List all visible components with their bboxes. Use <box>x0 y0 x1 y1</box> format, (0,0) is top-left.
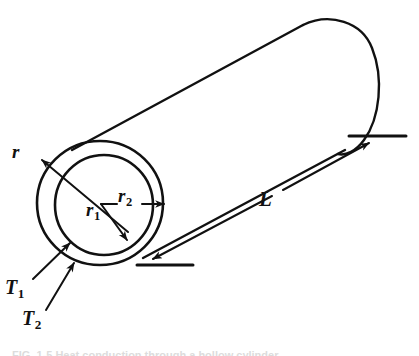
temperature-leaders <box>33 243 74 310</box>
label-inner-temperature-base: T <box>5 276 17 298</box>
label-outer-radius: r2 <box>118 186 132 205</box>
label-radial-direction: r <box>12 142 19 161</box>
cylinder-bottom-edge <box>143 150 345 258</box>
length-arrow-far <box>283 143 369 190</box>
inner-radius-arrow <box>101 204 127 240</box>
cylinder-diagram-canvas <box>0 0 419 356</box>
outer-temperature-leader <box>46 263 74 310</box>
inner-radius-dimension <box>101 204 127 240</box>
inner-temperature-leader <box>33 243 70 279</box>
label-outer-radius-subscript: 2 <box>126 195 132 209</box>
length-arrow-near <box>153 196 272 259</box>
cylinder-body <box>72 19 379 258</box>
figure-caption: FIG. 1-5 Heat conduction through a hollo… <box>12 349 412 356</box>
label-outer-temperature-base: T <box>22 307 34 329</box>
cylinder-far-end-cap <box>303 19 379 154</box>
label-outer-radius-base: r <box>118 185 125 206</box>
label-outer-temperature-subscript: 2 <box>35 317 42 332</box>
cylinder-top-edge <box>72 25 303 150</box>
label-inner-radius-subscript: 1 <box>94 209 100 223</box>
label-length: L <box>259 189 272 210</box>
label-inner-temperature: T1 <box>5 277 24 297</box>
label-inner-radius-base: r <box>86 199 93 220</box>
figure-hollow-cylinder: r r1 r2 L T1 T2 FIG. 1-5 Heat conduction… <box>0 0 419 356</box>
label-outer-temperature: T2 <box>22 308 41 328</box>
label-inner-temperature-subscript: 1 <box>18 286 25 301</box>
label-inner-radius: r1 <box>86 200 100 219</box>
